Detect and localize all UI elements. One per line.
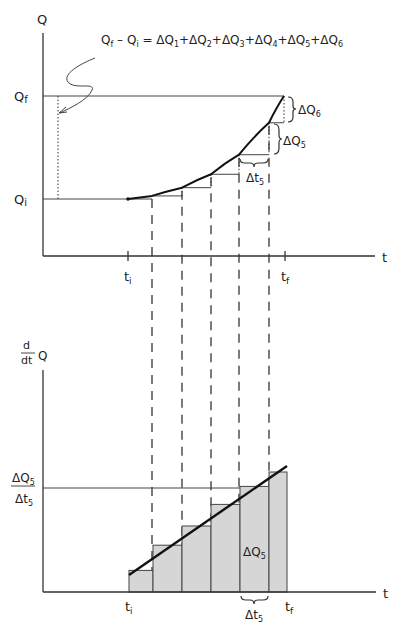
- squiggle-arrow: [60, 58, 95, 113]
- start-point: [126, 197, 130, 201]
- dq5-label: ΔQ5: [283, 134, 306, 150]
- riemann-sum-diagram: Q t ti tf Qf Qi Qf – Qi = ΔQ1+ΔQ2+ΔQ3+ΔQ…: [0, 0, 407, 634]
- top-y-axis-label: Q: [37, 12, 47, 27]
- derivative-numerator: d: [23, 339, 30, 352]
- dq6-label: ΔQ6: [298, 103, 321, 119]
- rate-bar: [269, 472, 287, 592]
- rate-bars: [129, 472, 287, 592]
- top-ti-label: ti: [124, 269, 132, 286]
- qi-label: Qi: [14, 192, 27, 208]
- top-graph: Q t ti tf Qf Qi Qf – Qi = ΔQ1+ΔQ2+ΔQ3+ΔQ…: [14, 12, 387, 286]
- ratio-numerator: ΔQ5: [12, 471, 35, 487]
- top-tf-label: tf: [281, 269, 290, 286]
- bottom-ti-label: ti: [125, 599, 133, 616]
- bottom-dt5-label: Δt5: [245, 608, 263, 624]
- top-dt5-label: Δt5: [246, 171, 264, 187]
- bottom-tf-label: tf: [285, 599, 294, 616]
- bottom-dt5-brace: [241, 596, 268, 604]
- qf-label: Qf: [14, 89, 28, 105]
- dq5-brace: [274, 124, 282, 154]
- rate-bar: [153, 545, 182, 592]
- dt5-brace: [240, 159, 268, 167]
- derivative-q: Q: [38, 349, 47, 363]
- top-x-axis-label: t: [382, 250, 387, 265]
- derivative-denominator: dt: [21, 354, 33, 367]
- bottom-x-axis-label: t: [383, 586, 388, 601]
- rate-bar: [240, 486, 269, 592]
- rate-bar: [211, 504, 240, 592]
- equation: Qf – Qi = ΔQ1+ΔQ2+ΔQ3+ΔQ4+ΔQ5+ΔQ6: [101, 33, 343, 49]
- bottom-graph: t d dt Q ΔQ5 Δt5 ΔQ5 ti tf Δt5: [11, 339, 388, 624]
- dq6-brace: [288, 97, 296, 122]
- ratio-denominator: Δt5: [15, 492, 33, 508]
